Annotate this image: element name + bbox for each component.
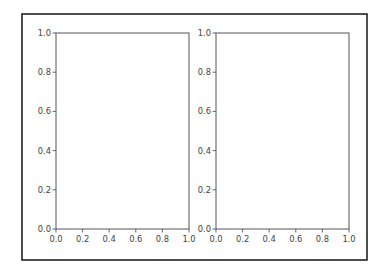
x-tick-label: 0.4 [103,234,116,244]
axes-2: 0.00.20.40.60.81.00.00.20.40.60.81.0 [198,28,356,244]
x-tick-label: 0.4 [263,234,276,244]
x-tick-label: 0.8 [156,234,169,244]
x-tick-label: 0.2 [236,234,249,244]
x-tick-label: 0.6 [289,234,302,244]
y-tick-label: 0.6 [198,106,211,116]
x-tick-label: 1.0 [182,234,195,244]
y-tick-label: 0.8 [198,67,211,77]
plot-area [216,33,349,229]
x-tick-label: 1.0 [342,234,355,244]
y-tick-label: 1.0 [38,28,51,38]
figure: 0.00.20.40.60.81.00.00.20.40.60.81.00.00… [0,0,387,273]
y-tick-label: 1.0 [198,28,211,38]
x-tick-label: 0.8 [316,234,329,244]
y-tick-label: 0.0 [38,224,51,234]
axes-1: 0.00.20.40.60.81.00.00.20.40.60.81.0 [38,28,196,244]
x-tick-label: 0.0 [209,234,222,244]
y-tick-label: 0.6 [38,106,51,116]
y-tick-label: 0.4 [38,146,51,156]
y-tick-label: 0.2 [198,185,211,195]
x-tick-label: 0.6 [129,234,142,244]
y-tick-label: 0.8 [38,67,51,77]
y-tick-label: 0.4 [198,146,211,156]
plot-area [56,33,189,229]
y-tick-label: 0.2 [38,185,51,195]
x-tick-label: 0.2 [76,234,89,244]
x-tick-label: 0.0 [49,234,62,244]
y-tick-label: 0.0 [198,224,211,234]
